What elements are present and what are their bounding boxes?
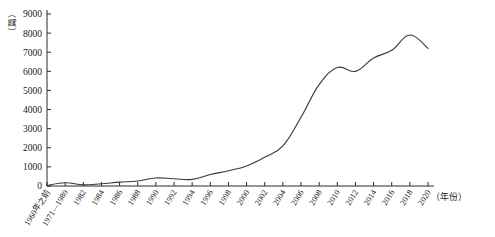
x-tick-label: 2014 <box>362 188 378 207</box>
x-tick-label: 2016 <box>380 188 396 207</box>
y-tick-label: 7000 <box>23 48 42 58</box>
y-tick-label: 0 <box>37 181 42 191</box>
x-tick-label: 1992 <box>162 188 178 207</box>
y-tick-label: 8000 <box>23 29 42 39</box>
x-axis-labels: 1960年之前1971—1980198219841986198819901992… <box>22 188 433 228</box>
x-tick-label: 2000 <box>235 188 251 207</box>
y-tick-label: 5000 <box>23 86 42 96</box>
x-axis-unit-label: （年份） <box>431 191 467 202</box>
x-tick-label: 2012 <box>344 188 360 207</box>
x-tick-label: 1988 <box>126 188 142 207</box>
y-tick-label: 2000 <box>23 143 42 153</box>
y-tick-label: 3000 <box>23 124 42 134</box>
x-tick-label: 1990 <box>144 188 160 207</box>
line-chart-plot: 0100020003000400050006000700080009000 19… <box>0 0 495 237</box>
chart-container: （篇） 010002000300040005000600070008000900… <box>0 0 495 237</box>
x-tick-label: 2004 <box>271 188 287 207</box>
x-tick-label: 2018 <box>398 188 414 207</box>
x-tick-label: 1984 <box>90 188 106 207</box>
y-axis-unit-text: （篇） <box>8 8 17 36</box>
x-tick-label: 1982 <box>72 188 88 207</box>
x-tick-label: 2006 <box>289 188 305 207</box>
y-tick-label: 9000 <box>23 9 42 19</box>
x-tick-label: 1998 <box>217 188 233 207</box>
x-tick-label: 2008 <box>308 188 324 207</box>
x-tick-label: 1986 <box>108 188 124 207</box>
x-tick-label: 1996 <box>199 188 215 207</box>
data-series-line <box>47 35 428 185</box>
y-axis-unit-label: （篇） <box>2 11 22 35</box>
y-tick-label: 1000 <box>23 162 42 172</box>
x-tick-label: 2002 <box>253 188 269 207</box>
x-tick-label: 1994 <box>181 188 197 207</box>
y-tick-label: 4000 <box>23 105 42 115</box>
y-tick-label: 6000 <box>23 67 42 77</box>
x-tick-label: 2010 <box>326 188 342 207</box>
